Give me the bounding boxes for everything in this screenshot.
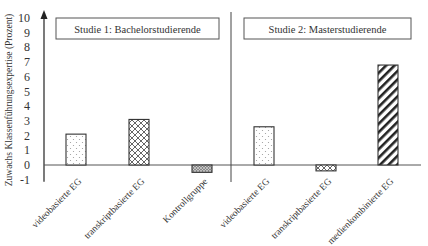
y-tick-label: 7 <box>24 55 30 69</box>
x-category-label: videobasierte EG <box>30 176 84 230</box>
y-tick-label: 5 <box>24 85 30 99</box>
study-2-label-box: Studie 2: Masterstudierende <box>244 18 411 39</box>
bar-chart: -1012345678910 Zuwachs Klassenführungsex… <box>0 0 428 246</box>
y-axis-label: Zuwachs Klassenführungsexpertise (Prozen… <box>4 14 15 187</box>
y-tick-label: 9 <box>24 26 30 40</box>
study-1-label-box: Studie 1: Bachelorstudierende <box>56 18 219 39</box>
y-tick-label: 0 <box>24 158 30 172</box>
bar <box>316 165 336 171</box>
y-tick-label: 8 <box>24 40 30 54</box>
bar <box>192 165 212 172</box>
y-tick-label: 4 <box>24 99 30 113</box>
y-axis-title: Zuwachs Klassenführungsexpertise (Prozen… <box>4 14 15 187</box>
y-axis-arrow-icon <box>41 10 48 19</box>
x-category-label: videobasierte EG <box>218 176 272 230</box>
bar <box>254 127 274 165</box>
y-tick-label: 3 <box>24 114 30 128</box>
y-tick-label: 2 <box>24 129 30 143</box>
y-tick-label: -1 <box>20 173 30 187</box>
y-tick-label: 1 <box>24 143 30 157</box>
bar <box>378 65 398 165</box>
x-category-label: transkriptbasierte EG <box>269 176 333 240</box>
bars <box>66 65 398 172</box>
x-category-label: transkriptbasierte EG <box>82 176 146 240</box>
bar <box>66 134 86 165</box>
y-tick-label: 10 <box>18 11 30 25</box>
study-panels: Studie 1: BachelorstudierendeStudie 2: M… <box>56 18 411 39</box>
study-2-label: Studie 2: Masterstudierende <box>269 24 387 35</box>
study-1-label: Studie 1: Bachelorstudierende <box>74 24 201 35</box>
x-category-label: Kontrollgruppe <box>161 176 209 224</box>
y-tick-label: 6 <box>24 70 30 84</box>
x-axis-category-labels: videobasierte EGtranskriptbasierte EGKon… <box>30 176 396 246</box>
x-category-label: medienkombinierte EG <box>325 176 395 246</box>
y-axis-ticks: -1012345678910 <box>18 11 30 187</box>
chart-canvas: -1012345678910 Zuwachs Klassenführungsex… <box>0 0 428 246</box>
bar <box>129 119 149 165</box>
